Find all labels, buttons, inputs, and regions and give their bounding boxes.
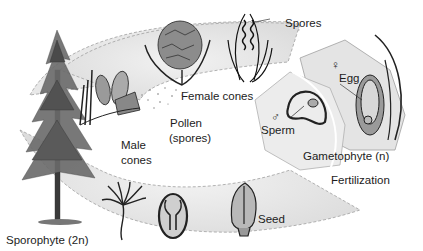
- label-male-cones-line2: cones: [121, 154, 152, 166]
- seed-section-illustration: [159, 194, 187, 238]
- label-gametophyte: Gametophyte (n): [303, 150, 389, 162]
- label-pollen-line1: Pollen: [170, 117, 202, 129]
- pine-life-cycle-diagram: Spores Female cones Pollen (spores) Male…: [0, 0, 423, 251]
- label-sperm: Sperm: [261, 124, 295, 136]
- label-pollen-line2: (spores): [169, 132, 211, 144]
- label-sporophyte: Sporophyte (2n): [6, 234, 88, 246]
- label-seed: Seed: [258, 213, 285, 225]
- label-egg: Egg: [339, 72, 359, 84]
- label-male-cones-line1: Male: [121, 139, 146, 151]
- label-spores: Spores: [285, 17, 321, 29]
- label-fertilization: Fertilization: [331, 174, 390, 186]
- male-symbol-icon: ♂: [271, 111, 280, 123]
- female-symbol-icon: ♀: [331, 59, 340, 71]
- label-female-cones: Female cones: [181, 90, 253, 102]
- diagram-artwork: [0, 0, 423, 251]
